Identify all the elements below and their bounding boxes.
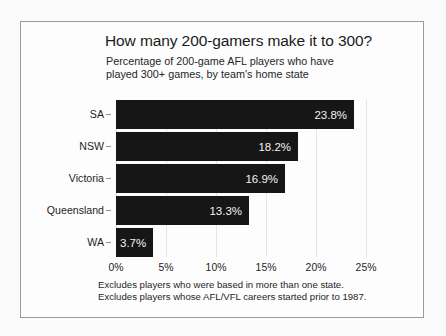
x-tick-label-15: 15% — [256, 262, 277, 273]
bar-series: 23.8% 18.2% 16.9% 13.3% 3.7% — [116, 100, 371, 257]
footnote-line-2: Excludes players whose AFL/VFL careers s… — [98, 291, 418, 303]
y-tick-wa — [106, 242, 111, 243]
x-tick-label-0: 0% — [108, 262, 123, 273]
chart-figure: How many 200-gamers make it to 300? Perc… — [20, 21, 424, 318]
chart-subtitle-line-1: Percentage of 200-game AFL players who h… — [106, 55, 406, 68]
category-label-nsw: NSW — [79, 132, 104, 161]
y-tick-sa — [106, 114, 111, 115]
bar-value-wa: 3.7% — [120, 237, 146, 249]
chart-title: How many 200-gamers make it to 300? — [105, 32, 415, 50]
x-tick-label-25: 25% — [356, 262, 377, 273]
x-tick-label-20: 20% — [306, 262, 327, 273]
x-tick-label-5: 5% — [158, 262, 173, 273]
category-label-wa: WA — [87, 228, 104, 257]
bar-wa[interactable]: 3.7% — [116, 228, 153, 257]
category-label-sa: SA — [90, 100, 104, 129]
bar-nsw[interactable]: 18.2% — [116, 132, 298, 161]
bar-value-queensland: 13.3% — [209, 205, 242, 217]
bar-row-nsw: 18.2% — [116, 132, 371, 161]
bar-row-queensland: 13.3% — [116, 196, 371, 225]
x-axis: 0% 5% 10% 15% 20% 25% — [116, 257, 371, 277]
bar-value-sa: 23.8% — [314, 109, 347, 121]
bar-sa[interactable]: 23.8% — [116, 100, 354, 129]
category-label-victoria: Victoria — [69, 164, 104, 193]
y-tick-victoria — [106, 178, 111, 179]
chart-subtitle-line-2: played 300+ games, by team's home state — [106, 68, 406, 81]
chart-footnotes: Excludes players who were based in more … — [98, 279, 418, 302]
bar-row-sa: 23.8% — [116, 100, 371, 129]
bar-victoria[interactable]: 16.9% — [116, 164, 285, 193]
y-tick-nsw — [106, 146, 111, 147]
y-axis-category-labels: SA NSW Victoria Queensland WA — [21, 100, 111, 257]
bar-queensland[interactable]: 13.3% — [116, 196, 249, 225]
x-tick-label-10: 10% — [206, 262, 227, 273]
bar-row-victoria: 16.9% — [116, 164, 371, 193]
y-tick-queensland — [106, 210, 111, 211]
footnote-line-1: Excludes players who were based in more … — [98, 279, 418, 291]
bar-value-nsw: 18.2% — [258, 141, 291, 153]
category-label-queensland: Queensland — [47, 196, 104, 225]
bar-value-victoria: 16.9% — [245, 173, 278, 185]
bar-row-wa: 3.7% — [116, 228, 371, 257]
plot-area: 23.8% 18.2% 16.9% 13.3% 3.7% — [116, 100, 371, 257]
chart-subtitle: Percentage of 200-game AFL players who h… — [106, 55, 406, 82]
